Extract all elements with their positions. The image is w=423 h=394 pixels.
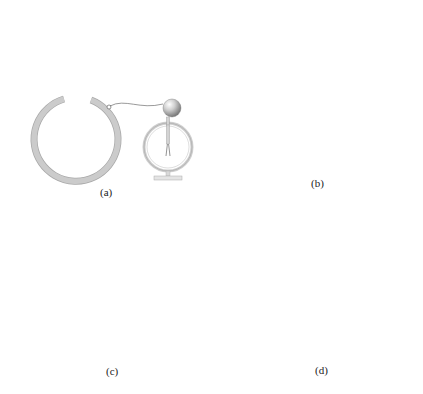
panel-label-b: (b) xyxy=(311,177,324,189)
electroscope-knob xyxy=(163,99,181,117)
electroscope xyxy=(144,99,192,180)
electroscope-leaf-right xyxy=(169,144,170,156)
connecting-wire xyxy=(110,103,163,106)
electroscope-leaf-left xyxy=(166,144,167,156)
panel-label-c: (c) xyxy=(106,365,118,377)
electrostatic-shielding-diagram xyxy=(0,0,423,394)
panel-label-d: (d) xyxy=(315,364,328,376)
panel-a xyxy=(34,99,192,181)
panel-label-a: (a) xyxy=(100,186,112,198)
